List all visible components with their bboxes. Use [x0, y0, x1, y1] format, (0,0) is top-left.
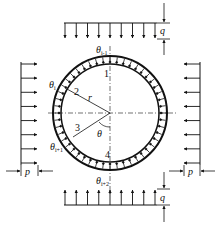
theta-center-label: θ [97, 128, 102, 139]
ring-arrowhead [69, 81, 71, 83]
p-right-label: p [187, 166, 193, 177]
ring-arrowhead [59, 105, 61, 107]
ring-arrowhead [145, 76, 147, 78]
q-bottom-label: q [160, 192, 165, 203]
ring-arrowhead [78, 72, 80, 74]
ring-arrowhead [60, 99, 62, 101]
ring-arrowhead [73, 76, 75, 78]
ring-arrowhead [140, 72, 142, 74]
ring-arrowhead [102, 163, 104, 165]
ring-arrowhead [62, 93, 64, 95]
node-1-label: 1 [104, 68, 109, 79]
ring-arrowhead [135, 68, 137, 70]
ring-arrowhead [153, 87, 155, 89]
right-load-p [184, 62, 200, 165]
ring-arrowhead [156, 132, 158, 134]
ring-arrowhead [158, 99, 160, 101]
ring-arrowhead [129, 65, 131, 67]
bottom-load-q [64, 190, 157, 205]
ring-arrowhead [122, 63, 124, 65]
ring-arrowhead [65, 87, 67, 89]
ring-arrowhead [60, 125, 62, 127]
theta-i-label: θi [49, 79, 56, 91]
ring-arrowhead [153, 138, 155, 140]
ring-arrowhead [145, 148, 147, 150]
node-2-label: 2 [74, 86, 79, 97]
bottom-q-dimension: q [157, 172, 170, 222]
top-q-dimension: q [157, 3, 170, 55]
ring-arrowhead [116, 62, 118, 64]
ring-arrowhead [109, 61, 111, 63]
ring-arrowhead [158, 125, 160, 127]
ring-arrowhead [116, 163, 118, 165]
ring-arrowhead [96, 63, 98, 65]
ring-arrowhead [96, 161, 98, 163]
p-left-label: p [24, 166, 30, 177]
ring-arrowhead [160, 112, 162, 114]
ring-arrowhead [78, 153, 80, 155]
ring-arrowhead [65, 138, 67, 140]
q-top-label: q [160, 25, 165, 36]
theta-bottom-label: θi+2 [96, 175, 109, 187]
ring-arrowhead [129, 159, 131, 161]
left-p-dimension: p [6, 165, 53, 177]
ring-arrowhead [84, 156, 86, 158]
radius-label: r [88, 92, 92, 103]
ring-arrowhead [135, 156, 137, 158]
ring-arrowhead [156, 93, 158, 95]
ring-load-diagram: q q p p [0, 0, 222, 228]
ring-arrowhead [150, 81, 152, 83]
ring-arrowhead [58, 112, 60, 114]
ring-arrowhead [160, 105, 162, 107]
ring-arrowhead [102, 62, 104, 64]
theta-top-label: θi-1 [96, 44, 108, 56]
ring-arrowhead [140, 153, 142, 155]
ring-arrowhead [59, 119, 61, 121]
ring-arrowhead [90, 159, 92, 161]
ring-arrowhead [84, 68, 86, 70]
top-load-q [64, 23, 157, 38]
ring-arrowhead [69, 143, 71, 145]
ring-arrowhead [160, 119, 162, 121]
ring-arrowhead [150, 143, 152, 145]
node-3-label: 3 [75, 122, 80, 133]
ring-arrowhead [62, 132, 64, 134]
theta-arc [99, 122, 110, 127]
ring-arrowhead [73, 148, 75, 150]
node-4-label: 4 [105, 149, 110, 160]
ring-arrowhead [109, 163, 111, 165]
left-load-p [21, 62, 37, 165]
ring-arrowhead [122, 161, 124, 163]
ring-arrowhead [90, 65, 92, 67]
right-p-dimension: p [169, 165, 215, 177]
